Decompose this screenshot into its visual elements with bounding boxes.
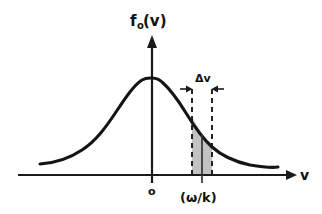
x-axis-label: v xyxy=(300,167,309,183)
delta-v-label: Δv xyxy=(195,72,212,85)
phase-velocity-label: (ω/k) xyxy=(180,190,217,205)
figure-canvas: f o (v) v o (ω/k) Δv xyxy=(0,0,322,214)
y-axis-label-argument: (v) xyxy=(143,12,167,30)
distribution-curve xyxy=(40,78,278,167)
arrow-right-icon xyxy=(286,170,297,180)
y-axis-label-f: f xyxy=(130,12,137,30)
velocity-distribution-figure: f o (v) v o (ω/k) Δv xyxy=(0,0,322,214)
arrow-up-icon xyxy=(147,35,157,48)
origin-label: o xyxy=(148,185,156,198)
